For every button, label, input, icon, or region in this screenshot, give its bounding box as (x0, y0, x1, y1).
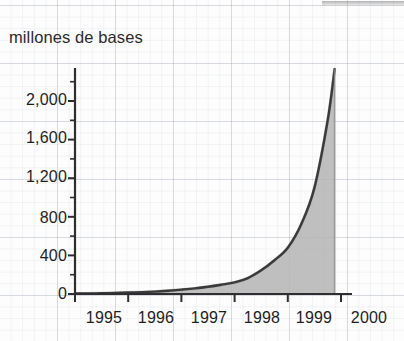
plot-area (0, 0, 404, 341)
area-fill (75, 69, 335, 294)
chart-figure: millones de bases 0 400 800 1,200 1,600 … (0, 0, 404, 341)
area-fill-group (75, 69, 335, 294)
